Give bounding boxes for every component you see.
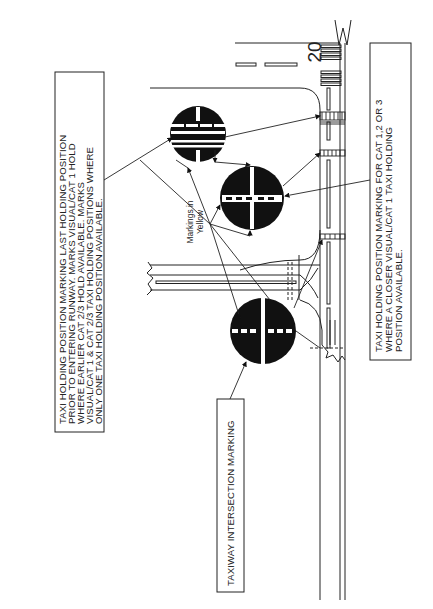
centerline-dash xyxy=(327,88,330,110)
centerline-dash xyxy=(327,242,330,304)
callout-line: TAXIWAY INTERSECTION MARKING xyxy=(225,420,236,586)
callout-intersection: TAXIWAY INTERSECTION MARKING xyxy=(217,399,244,592)
holding-bars-upper xyxy=(320,112,345,124)
marker-bottom xyxy=(230,298,296,364)
break-line-top xyxy=(335,20,351,45)
marker-middle xyxy=(220,166,284,230)
callout-cat123: TAXI HOLDING POSITION MARKING FOR CAT 1,… xyxy=(370,43,411,360)
callout-last-holding: TAXI HOLDING POSITION MARKING LAST HOLDI… xyxy=(55,72,104,432)
runway-designator: 20 xyxy=(304,41,325,62)
lower-stub xyxy=(300,300,345,362)
callout-line: POSITION AVAILABLE. xyxy=(393,249,404,352)
runway-centerline-dash xyxy=(236,63,256,66)
markings-note-line1: Markings in xyxy=(185,200,195,243)
markings-note-line2: Yellow xyxy=(195,209,205,234)
holding-bars-lower xyxy=(320,234,345,239)
marker-top xyxy=(170,106,226,162)
centerline-dash xyxy=(327,122,330,140)
callout-line: ONLY ONE TAXI HOLDING POSITION AVAILABLE… xyxy=(93,198,104,424)
runway-centerline-dash xyxy=(265,63,297,66)
centerline-dash xyxy=(327,160,330,228)
holding-bars-middle xyxy=(320,150,345,156)
airport-marking-diagram: 20 xyxy=(0,0,433,609)
